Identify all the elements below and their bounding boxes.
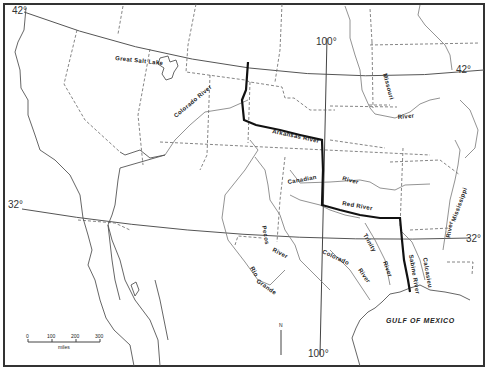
- scale-bar: [28, 339, 100, 342]
- map: 42° 42° 32° 32° 100° 100° Great Salt Lak…: [0, 0, 486, 370]
- mississippi-label: Mississippi: [450, 187, 468, 223]
- trinity-river-label: River: [382, 260, 393, 278]
- red-river-label: Red River: [342, 200, 374, 211]
- lon100-top-label: 100°: [316, 36, 337, 47]
- colorado-south-label: Colorado: [322, 248, 351, 266]
- lat42-right-label: 42°: [456, 64, 471, 75]
- scale-unit: miles: [58, 344, 70, 350]
- missouri-river-label: River: [398, 113, 415, 120]
- scale-tick-100: 100: [47, 333, 56, 339]
- pecos-river-label: River: [272, 247, 290, 260]
- lat32-right-label: 32°: [466, 233, 481, 244]
- trinity-label: Trinity: [362, 233, 377, 254]
- lon100-bottom-label: 100°: [308, 348, 329, 359]
- scale-tick-300: 300: [95, 333, 104, 339]
- gulf-of-mexico-label: GULF OF MEXICO: [386, 317, 455, 324]
- arkansas-river-label: Arkansas River: [272, 128, 320, 144]
- scale-tick-200: 200: [71, 333, 80, 339]
- colorado-river-north-label: Colorado River: [173, 84, 213, 119]
- parallel-32: [22, 209, 470, 239]
- colorado-south-river-label: River: [357, 267, 372, 284]
- canadian-river-label: River: [342, 175, 360, 185]
- lat32-left-label: 32°: [8, 199, 23, 210]
- map-canvas: 42° 42° 32° 32° 100° 100° Great Salt Lak…: [0, 0, 486, 370]
- great-salt-lake-label: Great Salt Lake: [115, 55, 164, 66]
- mississippi-river-label: River: [445, 221, 454, 239]
- meridian-100: [320, 38, 327, 355]
- rio-label: Rio: [249, 266, 259, 278]
- missouri-label: Missouri: [382, 73, 395, 101]
- north-arrow-label: N: [279, 322, 283, 328]
- scale-tick-0: 0: [26, 333, 29, 339]
- calcasieu-label: Calcasieu: [422, 257, 433, 288]
- canadian-label: Canadian: [287, 174, 317, 185]
- lat42-left-label: 42°: [12, 5, 27, 16]
